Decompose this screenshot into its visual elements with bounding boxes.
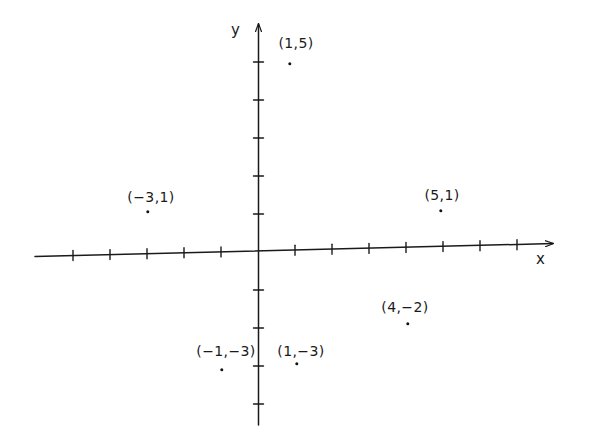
- coordinate-plane-figure: y x (1,5)(−3,1)(5,1)(4,−2)(−1,−3)(1,−3): [0, 0, 593, 446]
- y-axis: [254, 24, 264, 425]
- point-label: (−1,−3): [196, 344, 255, 358]
- point-label: (4,−2): [381, 300, 428, 314]
- x-axis: [35, 240, 553, 261]
- point-label: (1,5): [278, 36, 313, 50]
- y-axis-label: y: [231, 23, 240, 38]
- axes-drawing: [0, 0, 593, 446]
- x-axis-ticks: [73, 240, 517, 261]
- point-label: (5,1): [424, 188, 459, 202]
- point-label: (−3,1): [127, 190, 174, 204]
- x-axis-line: [35, 244, 553, 257]
- point-label: (1,−3): [277, 344, 324, 358]
- x-axis-label: x: [536, 252, 545, 267]
